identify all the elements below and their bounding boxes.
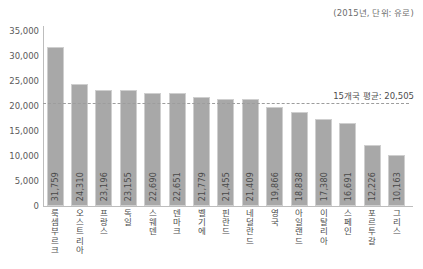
bar-value-label: 17,380 — [315, 172, 332, 201]
category-label-text: 아일랜드 — [294, 209, 304, 246]
bar-slot: 17,380 — [311, 31, 335, 206]
x-axis-category-label: 독일 — [116, 209, 140, 267]
bar-value-label: 23,155 — [120, 172, 137, 201]
bar[interactable]: 23,196 — [95, 90, 112, 206]
bar-series: 31,75924,31023,19623,15522,69022,65121,7… — [43, 31, 409, 206]
average-line-label: 15개국 평균: 20,505 — [333, 89, 414, 101]
bar-slot: 22,690 — [141, 31, 165, 206]
x-axis-category-label: 프랑스 — [92, 209, 116, 267]
category-label-text: 포르투갈 — [367, 209, 377, 246]
bar[interactable]: 31,759 — [47, 47, 64, 206]
x-axis-category-label: 영국 — [263, 209, 287, 267]
bar-slot: 19,866 — [263, 31, 287, 206]
bar-slot: 21,779 — [189, 31, 213, 206]
x-axis-category-label: 덴마크 — [165, 209, 189, 267]
category-label-text: 프랑스 — [99, 209, 109, 237]
x-axis-line — [43, 206, 413, 207]
x-axis-category-label: 룩셈부르크 — [43, 209, 67, 267]
y-axis-tick-label: 25,000 — [1, 76, 39, 86]
bar-slot: 21,409 — [238, 31, 262, 206]
category-label-text: 오스트리아 — [75, 209, 85, 255]
plot-area: 31,75924,31023,19623,15522,69022,65121,7… — [43, 31, 409, 206]
bar-value-label: 18,838 — [291, 172, 308, 201]
bar[interactable]: 21,409 — [242, 99, 259, 206]
x-axis-category-label: 벨기에 — [189, 209, 213, 267]
category-label-text: 스페인 — [343, 209, 353, 237]
bar[interactable]: 12,226 — [364, 145, 381, 206]
y-axis-tick-label: 35,000 — [1, 26, 39, 36]
y-axis-tick-labels: 05,00010,00015,00020,00025,00030,00035,0… — [0, 0, 39, 269]
bar-slot: 22,651 — [165, 31, 189, 206]
bar-value-label: 21,779 — [193, 172, 210, 201]
bar-value-label: 22,690 — [144, 172, 161, 201]
bar[interactable]: 18,838 — [291, 112, 308, 206]
bar-value-label: 31,759 — [47, 172, 64, 201]
bar-value-label: 21,455 — [217, 172, 234, 201]
chart-unit-note: (2015년, 단위: 유로) — [333, 6, 414, 18]
bar-slot: 23,155 — [116, 31, 140, 206]
bar-value-label: 19,866 — [266, 172, 283, 201]
y-axis-tick-label: 30,000 — [1, 51, 39, 61]
x-axis-category-label: 오스트리아 — [67, 209, 91, 267]
y-axis-tick-label: 20,000 — [1, 101, 39, 111]
category-label-text: 영국 — [270, 209, 280, 227]
x-axis-category-label: 스웨덴 — [141, 209, 165, 267]
x-axis-category-label: 포르투갈 — [360, 209, 384, 267]
bar-value-label: 22,651 — [169, 172, 186, 201]
average-line — [43, 103, 409, 104]
bar[interactable]: 21,455 — [217, 99, 234, 206]
bar-slot: 10,163 — [385, 31, 409, 206]
bar[interactable]: 17,380 — [315, 119, 332, 206]
category-label-text: 벨기에 — [197, 209, 207, 237]
bar-slot: 16,691 — [336, 31, 360, 206]
category-label-text: 그리스 — [392, 209, 402, 237]
bar[interactable]: 19,866 — [266, 107, 283, 206]
bar[interactable]: 23,155 — [120, 90, 137, 206]
bar[interactable]: 16,691 — [339, 123, 356, 206]
bar-slot: 24,310 — [67, 31, 91, 206]
bar[interactable]: 22,690 — [144, 93, 161, 206]
bar-chart: (2015년, 단위: 유로) 05,00010,00015,00020,000… — [0, 0, 423, 269]
category-label-text: 이탈리아 — [319, 209, 329, 246]
y-axis-tick-label: 15,000 — [1, 126, 39, 136]
y-axis-tick-label: 5,000 — [1, 176, 39, 186]
x-axis-category-label: 스페인 — [336, 209, 360, 267]
x-axis-category-labels: 룩셈부르크오스트리아프랑스독일스웨덴덴마크벨기에핀란드네덜란드영국아일랜드이탈리… — [43, 209, 409, 267]
bar-value-label: 23,196 — [95, 172, 112, 201]
bar-slot: 12,226 — [360, 31, 384, 206]
category-label-text: 네덜란드 — [245, 209, 255, 246]
bar-slot: 18,838 — [287, 31, 311, 206]
bar-slot: 23,196 — [92, 31, 116, 206]
category-label-text: 독일 — [123, 209, 133, 227]
x-axis-category-label: 그리스 — [385, 209, 409, 267]
bar-slot: 21,455 — [214, 31, 238, 206]
bar-value-label: 16,691 — [339, 172, 356, 201]
y-axis-tick-label: 0 — [1, 201, 39, 211]
bar-value-label: 24,310 — [71, 172, 88, 201]
bar-value-label: 12,226 — [364, 172, 381, 201]
bar[interactable]: 21,779 — [193, 97, 210, 206]
category-label-text: 핀란드 — [221, 209, 231, 237]
bar-value-label: 21,409 — [242, 172, 259, 201]
category-label-text: 룩셈부르크 — [50, 209, 60, 255]
category-label-text: 스웨덴 — [148, 209, 158, 237]
x-axis-category-label: 핀란드 — [214, 209, 238, 267]
y-axis-tick-label: 10,000 — [1, 151, 39, 161]
x-axis-category-label: 아일랜드 — [287, 209, 311, 267]
category-label-text: 덴마크 — [172, 209, 182, 237]
bar[interactable]: 22,651 — [169, 93, 186, 206]
x-axis-category-label: 이탈리아 — [311, 209, 335, 267]
x-axis-category-label: 네덜란드 — [238, 209, 262, 267]
bar[interactable]: 10,163 — [388, 155, 405, 206]
bar-value-label: 10,163 — [388, 172, 405, 201]
bar-slot: 31,759 — [43, 31, 67, 206]
